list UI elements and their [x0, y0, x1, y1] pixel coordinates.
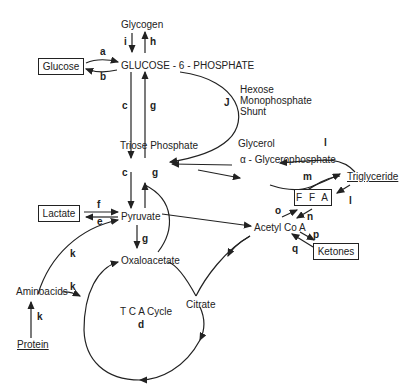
label-m: m — [303, 172, 312, 182]
node-hmp-1: Hexose — [240, 85, 274, 95]
label-o: o — [275, 206, 281, 216]
label-g3: g — [142, 234, 148, 244]
node-glycerol: Glycerol — [238, 139, 275, 149]
node-glucose: Glucose — [38, 58, 84, 75]
node-oxaloacetate: Oxaloacetate — [121, 256, 180, 266]
label-d: d — [138, 320, 144, 330]
label-g1: g — [150, 101, 156, 111]
label-a: a — [100, 47, 106, 57]
label-i: i — [124, 37, 127, 47]
label-l1: l — [324, 138, 327, 148]
label-p: p — [313, 230, 319, 240]
node-lactate: Lactate — [38, 205, 80, 222]
label-q: q — [292, 244, 298, 254]
label-b: b — [100, 72, 106, 82]
label-c1: c — [122, 101, 128, 111]
label-k1: k — [70, 249, 76, 259]
label-c2: c — [122, 168, 128, 178]
node-g6p: GLUCOSE - 6 - PHOSPHATE — [121, 61, 254, 71]
label-e: e — [97, 217, 103, 227]
label-h: h — [150, 37, 156, 47]
node-hmp-3: Shunt — [240, 107, 266, 117]
node-protein: Protein — [17, 340, 49, 350]
node-aminoacids: Aminoacids — [16, 287, 68, 297]
label-g2: g — [152, 168, 158, 178]
node-glycogen: Glycogen — [121, 20, 163, 30]
node-pyruvate: Pyruvate — [121, 212, 160, 222]
node-triose-phosphate: Triose Phosphate — [120, 141, 198, 151]
node-hmp-2: Monophosphate — [240, 96, 312, 106]
label-n: n — [307, 212, 313, 222]
node-citrate: Citrate — [186, 300, 215, 310]
label-k3: k — [37, 312, 43, 322]
node-acetyl-coa: Acetyl Co A — [254, 223, 306, 233]
label-f: f — [97, 200, 100, 210]
label-k2: k — [70, 282, 76, 292]
label-j: J — [224, 98, 230, 108]
node-ffa: F F A — [294, 189, 332, 206]
node-ketones: Ketones — [313, 243, 359, 260]
node-glycerophosphate: α - Glycerophosphate — [240, 155, 336, 165]
label-l2: l — [349, 196, 352, 206]
node-triglyceride: Triglyceride — [347, 172, 398, 182]
node-tca-cycle: T C A Cycle — [120, 307, 172, 317]
